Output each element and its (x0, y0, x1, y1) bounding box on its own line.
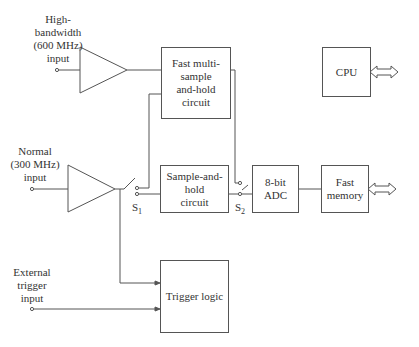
switch-subscript: 1 (138, 207, 142, 216)
block-label-line: circuit (166, 196, 222, 209)
fast-memory-block: Fast memory (321, 165, 369, 213)
label-line: (300 MHz) (10, 158, 60, 171)
block-label-line: hold (166, 183, 222, 196)
label-line: input (10, 171, 60, 184)
block-label-line: sample (162, 70, 230, 83)
high-bandwidth-input-terminal (55, 68, 58, 71)
switch-s2-label: S2 (233, 201, 247, 218)
label-line: trigger (12, 279, 52, 292)
label-line: bandwidth (28, 26, 88, 39)
memory-bus-arrow-icon (368, 183, 396, 195)
switch-s1-label: S1 (130, 201, 144, 218)
external-trigger-input-label: External trigger input (12, 266, 52, 305)
normal-amplifier-icon (68, 165, 115, 212)
label-line: (600 MHz) (28, 39, 88, 52)
label-line: input (12, 292, 52, 305)
block-label: CPU (336, 66, 357, 79)
label-line: input (28, 52, 88, 65)
block-label: 8-bit ADC (253, 176, 298, 202)
external-trigger-terminal (30, 307, 33, 310)
block-label-line: Sample-and- (166, 170, 222, 183)
label-line: External (12, 266, 52, 279)
cpu-block: CPU (322, 47, 371, 97)
adc-block: 8-bit ADC (252, 165, 299, 213)
block-label-line: memory (327, 189, 364, 202)
block-label-line: Fast multi- (162, 57, 230, 70)
cpu-bus-arrow-icon (370, 66, 398, 78)
normal-input-label: Normal (300 MHz) input (10, 145, 60, 184)
high-bandwidth-input-label: High- bandwidth (600 MHz) input (28, 13, 88, 65)
sample-and-hold-block: Sample-and- hold circuit (160, 165, 229, 213)
label-line: Normal (10, 145, 60, 158)
switch-subscript: 2 (241, 207, 245, 216)
normal-input-terminal (30, 187, 33, 190)
block-label: Trigger logic (166, 290, 223, 303)
fast-multi-sample-hold-block: Fast multi- sample and-hold circuit (161, 47, 231, 119)
label-line: High- (28, 13, 88, 26)
block-label-line: Fast (327, 176, 364, 189)
trigger-logic-block: Trigger logic (160, 260, 229, 333)
block-label-line: and-hold circuit (162, 83, 230, 109)
